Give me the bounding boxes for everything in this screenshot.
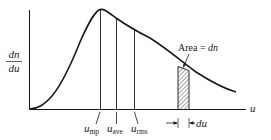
- u-rms-label: urms: [131, 122, 148, 136]
- speed-distribution-diagram: dn du u Area = dn ump uave urms du: [0, 0, 271, 140]
- hatched-area-strip: [178, 67, 189, 110]
- distribution-curve: [30, 9, 237, 109]
- du-arrow-right-head: [189, 121, 194, 125]
- du-arrow-left-head: [174, 121, 179, 125]
- y-axis-label-numerator: dn: [9, 48, 21, 60]
- u-mp-label: ump: [84, 122, 99, 136]
- x-axis-label: u: [250, 102, 256, 114]
- y-axis-label-denominator: du: [9, 62, 21, 74]
- area-label: Area = dn: [178, 42, 218, 53]
- u-ave-label: uave: [107, 122, 124, 136]
- du-label: du: [196, 117, 208, 129]
- u-mp-pointer: [96, 112, 100, 124]
